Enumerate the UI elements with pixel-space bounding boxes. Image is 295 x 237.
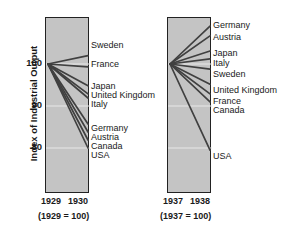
x-tick-label-1937: 1937: [163, 196, 183, 206]
series-label-italy: Italy: [213, 59, 230, 68]
series-label-germany: Germany: [213, 21, 250, 30]
x-axis-ticks-right: 19371938: [163, 196, 210, 206]
series-labels-right: GermanyAustriaJapanItalySwedenUnited Kin…: [213, 0, 295, 237]
series-labels-left: SwedenFranceJapanUnited KingdomItalyGerm…: [91, 0, 171, 237]
y-tick-label-100: 100: [20, 58, 42, 68]
series-label-austria: Austria: [213, 33, 241, 42]
x-axis-ticks-left: 19291930: [41, 196, 88, 206]
series-line-usa: [170, 64, 210, 150]
chart-figure: Index of Industrial Output 100 90 80 Swe…: [0, 0, 295, 237]
series-label-usa: USA: [213, 152, 232, 161]
plot-lines-right: [168, 18, 212, 194]
series-label-usa: USA: [91, 151, 110, 160]
series-label-france: France: [91, 60, 119, 69]
series-line-canada: [170, 64, 210, 102]
x-tick-label-1938: 1938: [190, 196, 210, 206]
series-line-sweden: [48, 56, 88, 64]
x-axis-caption-right: (1937 = 100): [160, 211, 211, 221]
y-tick-label-80: 80: [20, 142, 42, 152]
plot-panel-1937-1938: [167, 17, 211, 193]
series-label-canada: Canada: [213, 106, 245, 115]
x-axis-caption-left: (1929 = 100): [38, 211, 89, 221]
series-label-sweden: Sweden: [213, 70, 246, 79]
y-axis-ticks: 100 90 80: [18, 0, 42, 237]
y-tick-label-90: 90: [20, 100, 42, 110]
series-label-japan: Japan: [213, 49, 238, 58]
plot-lines-left: [46, 18, 90, 194]
series-label-united-kingdom: United Kingdom: [213, 86, 277, 95]
series-label-italy: Italy: [91, 100, 108, 109]
series-label-sweden: Sweden: [91, 41, 124, 50]
x-tick-label-1930: 1930: [68, 196, 88, 206]
x-tick-label-1929: 1929: [41, 196, 61, 206]
plot-panel-1929-1930: [45, 17, 89, 193]
